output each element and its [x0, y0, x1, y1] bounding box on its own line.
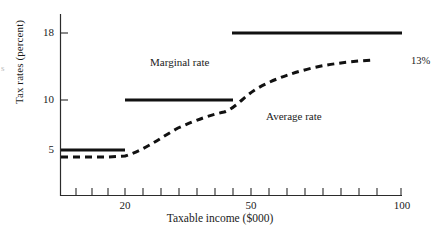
marginal-rate-label: Marginal rate — [150, 56, 209, 68]
average-rate-series — [61, 60, 374, 157]
tax-rate-chart: Tax rates (percent) Taxable income ($000… — [0, 0, 444, 240]
x-tick-label-20: 20 — [110, 199, 140, 211]
y-tick-label-18: 18 — [28, 26, 54, 38]
x-tick-label-100: 100 — [387, 199, 417, 211]
x-axis-ticks — [76, 188, 401, 196]
average-rate-label: Average rate — [266, 110, 322, 122]
x-axis-title: Taxable income ($000) — [110, 212, 330, 224]
chart-plot-area — [0, 0, 444, 240]
edge-fragment-glyph: s — [1, 63, 5, 73]
marginal-rate-series — [61, 33, 402, 150]
y-tick-label-5: 5 — [28, 143, 54, 155]
x-tick-label-50: 50 — [236, 199, 266, 211]
y-axis-title: Tax rates (percent) — [13, 7, 25, 117]
average-rate-endpoint-label: 13% — [411, 55, 430, 66]
y-axis-ticks — [61, 33, 69, 150]
y-tick-label-10: 10 — [28, 93, 54, 105]
average-rate-dashed-path — [61, 60, 374, 157]
